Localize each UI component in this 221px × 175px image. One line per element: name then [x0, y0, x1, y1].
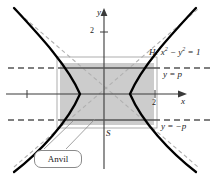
line-label-y-equals-p: y = p — [163, 70, 182, 79]
anvil-leader-line-left — [44, 121, 73, 149]
y-axis-arrow — [101, 8, 108, 16]
y-axis-label: y — [97, 8, 101, 17]
hyperbola-figure: x y 2 2 H: x2 − y2 = 1 y = p y = −p S An… — [0, 0, 221, 175]
line-label-y-equals-minus-p: y = −p — [161, 122, 186, 131]
region-label-S: S — [106, 129, 111, 138]
anvil-callout-label: Anvil — [48, 154, 69, 164]
hyperbola-equation-part3: = 1 — [185, 47, 200, 57]
x-axis-label: x — [181, 97, 185, 106]
x-tick-label-2: 2 — [152, 99, 156, 107]
hyperbola-equation-part2: − y — [168, 47, 183, 57]
hyperbola-equation-part1: H: x — [149, 47, 165, 57]
anvil-callout-box[interactable]: Anvil — [34, 150, 82, 168]
plot-canvas — [0, 0, 221, 175]
hyperbola-equation-label: H: x2 − y2 = 1 — [149, 46, 200, 57]
y-tick-label-2: 2 — [90, 27, 94, 35]
